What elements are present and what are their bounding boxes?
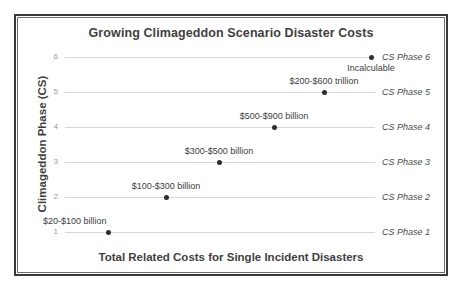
y-tick-label-5: 5 <box>36 88 58 96</box>
data-point-phase-3[interactable] <box>217 160 222 165</box>
gridline-phase-6 <box>65 57 375 58</box>
data-point-label-5: $200-$600 trillion <box>289 76 358 86</box>
chart-page: Growing Climageddon Scenario Disaster Co… <box>0 0 469 293</box>
gridline-phase-2 <box>65 197 375 198</box>
data-point-phase-5[interactable] <box>322 90 327 95</box>
y-tick-label-6: 6 <box>36 53 58 61</box>
gridline-phase-5 <box>65 92 375 93</box>
data-point-phase-1[interactable] <box>106 230 111 235</box>
data-point-label-2: $100-$300 billion <box>132 181 201 191</box>
y-tick-label-3: 3 <box>36 158 58 166</box>
data-point-phase-2[interactable] <box>164 195 169 200</box>
gridline-phase-1 <box>65 232 375 233</box>
y-tick-label-4: 4 <box>36 123 58 131</box>
phase-label-5: CS Phase 5 <box>382 88 430 97</box>
data-point-phase-4[interactable] <box>272 125 277 130</box>
phase-label-2: CS Phase 2 <box>382 193 430 202</box>
gridline-phase-4 <box>65 127 375 128</box>
data-point-phase-6[interactable] <box>369 55 374 60</box>
plot-area: 6 5 4 3 2 1 CS Phase 6 CS Phase 5 CS Pha… <box>18 18 444 272</box>
data-point-label-3: $300-$500 billion <box>185 146 254 156</box>
chart-canvas: Growing Climageddon Scenario Disaster Co… <box>18 18 444 272</box>
data-point-label-4: $500-$900 billion <box>240 111 309 121</box>
data-point-label-1: $20-$100 billion <box>43 216 107 226</box>
data-point-label-6: Incalculable <box>347 63 395 73</box>
y-tick-label-2: 2 <box>36 193 58 201</box>
y-tick-label-1: 1 <box>36 228 58 236</box>
phase-label-1: CS Phase 1 <box>382 228 430 237</box>
phase-label-4: CS Phase 4 <box>382 123 430 132</box>
phase-label-6: CS Phase 6 <box>382 53 430 62</box>
phase-label-3: CS Phase 3 <box>382 158 430 167</box>
x-axis-title: Total Related Costs for Single Incident … <box>18 251 444 263</box>
